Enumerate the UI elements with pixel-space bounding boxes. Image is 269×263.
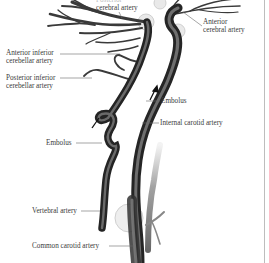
- label-line: Anterior: [203, 18, 245, 26]
- label-line: Common carotid artery: [32, 242, 99, 250]
- label-line: Embolus: [161, 97, 187, 105]
- label-anterior-cerebral-artery: Anterior cerebral artery: [203, 18, 245, 35]
- label-line: Internal carotid artery: [160, 119, 223, 127]
- label-line: Posterior: [96, 0, 138, 4]
- right-border-divider: [264, 0, 265, 263]
- artery-diagram: Posterior cerebral artery Anterior cereb…: [0, 0, 269, 263]
- label-embolus-upper: Embolus: [161, 97, 187, 105]
- label-line: cerebellar artery: [6, 57, 54, 65]
- label-line: cerebral artery: [203, 26, 245, 34]
- label-line: Vertebral artery: [32, 207, 77, 215]
- label-anterior-inferior-cerebellar-artery: Anterior inferior cerebellar artery: [6, 49, 54, 66]
- label-line: cerebellar artery: [6, 82, 55, 90]
- label-common-carotid-artery: Common carotid artery: [32, 242, 99, 250]
- external-carotid-artery: [146, 145, 164, 250]
- label-posterior-cerebral-artery: Posterior cerebral artery: [96, 0, 138, 13]
- label-vertebral-artery: Vertebral artery: [32, 207, 77, 215]
- label-line: cerebral artery: [96, 4, 138, 12]
- common-carotid-artery: [132, 200, 136, 262]
- label-line: Posterior inferior: [6, 74, 55, 82]
- label-embolus-lower: Embolus: [46, 139, 72, 147]
- basilar-vertebral-artery: [99, 22, 149, 228]
- label-internal-carotid-artery: Internal carotid artery: [160, 119, 223, 127]
- label-posterior-inferior-cerebellar-artery: Posterior inferior cerebellar artery: [6, 74, 55, 91]
- artery-illustration: [0, 0, 269, 263]
- label-line: Embolus: [46, 139, 72, 147]
- label-line: Anterior inferior: [6, 49, 54, 57]
